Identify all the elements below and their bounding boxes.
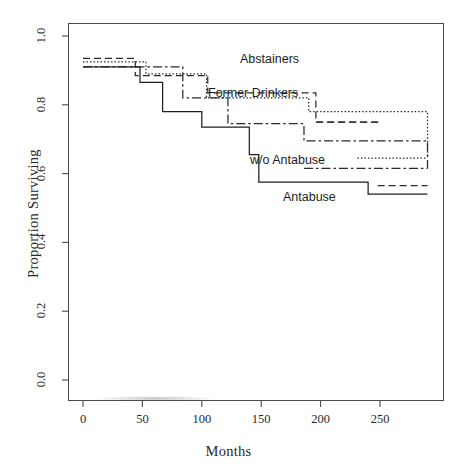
- survival-plot-figure: 050100150200250 0.00.20.40.60.81.0 Month…: [0, 0, 457, 470]
- x-axis-title: Months: [0, 443, 457, 460]
- y-axis-title: Proportion Surviving: [25, 104, 42, 324]
- y-tick-label: 1.0: [34, 19, 49, 53]
- x-tick-label: 100: [182, 412, 222, 427]
- x-tick-label: 150: [241, 412, 281, 427]
- x-tick-label: 250: [360, 412, 400, 427]
- x-tick-label: 0: [63, 412, 103, 427]
- plot-canvas: [0, 0, 457, 470]
- cropped-caption-artifact: [0, 462, 457, 470]
- survival-curves: [83, 58, 428, 194]
- abstainers-label: Abstainers: [240, 52, 299, 66]
- y-tick-label: 0.0: [34, 363, 49, 397]
- former-drinkers-label: Former Drinkers: [208, 86, 298, 100]
- antabuse-label: Antabuse: [283, 190, 336, 204]
- x-tick-label: 200: [301, 412, 341, 427]
- wo-antabuse-label: w/o Antabuse: [250, 153, 325, 167]
- x-tick-label: 50: [122, 412, 162, 427]
- curve-former-drinkers: [83, 62, 428, 158]
